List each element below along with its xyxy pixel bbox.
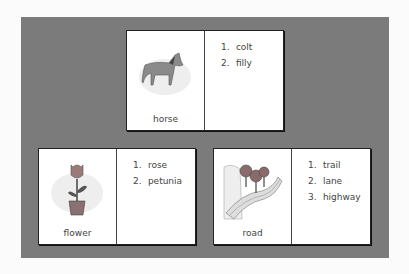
card-picture-area: horse [127,31,205,130]
road-icon [222,159,284,221]
card-word: flower [39,228,116,238]
card-road: road 1. trail 2. lane 3. highway [213,148,371,245]
card-picture-area: road [214,149,292,244]
card-word: horse [127,114,204,124]
list-item: 3. highway [308,189,361,205]
word-list: 1. trail 2. lane 3. highway [308,157,361,205]
word-list: 1. colt 2. filly [221,39,252,71]
horse-icon [135,41,195,101]
list-item: 1. rose [133,157,182,173]
card-list-area: 1. rose 2. petunia [117,149,195,244]
list-item: 1. colt [221,39,252,55]
card-list-area: 1. colt 2. filly [205,31,283,130]
list-item: 2. filly [221,55,252,71]
card-list-area: 1. trail 2. lane 3. highway [292,149,370,244]
card-flower: flower 1. rose 2. petunia [38,148,196,245]
card-horse: horse 1. colt 2. filly [126,30,284,131]
list-item: 1. trail [308,157,361,173]
card-picture-area: flower [39,149,117,244]
card-word: road [214,228,291,238]
list-item: 2. lane [308,173,361,189]
list-item: 2. petunia [133,173,182,189]
word-list: 1. rose 2. petunia [133,157,182,189]
flower-icon [47,159,107,221]
